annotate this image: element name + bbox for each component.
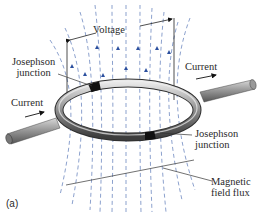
junctions — [90, 86, 155, 137]
junction-top-line2: junction — [12, 67, 55, 78]
junction-bottom-line2: junction — [195, 139, 238, 150]
field-lines — [50, 5, 195, 212]
junction-top-label: Josephson junction — [12, 56, 55, 78]
panel-label: (a) — [6, 198, 18, 209]
field-arrows — [70, 45, 171, 77]
current-right-label: Current — [185, 61, 217, 72]
junction-bottom-label: Josephson junction — [195, 128, 238, 150]
superconducting-ring — [59, 81, 197, 137]
junction-top-line1: Josephson — [12, 56, 55, 67]
voltage-label: Voltage — [93, 24, 125, 35]
flux-label: Magnetic field flux — [211, 176, 251, 198]
current-left-label: Current — [11, 97, 43, 108]
squid-diagram: Voltage Josephson junction Current Curre… — [0, 0, 264, 217]
right-lead — [200, 79, 257, 102]
flux-line1: Magnetic — [211, 176, 251, 187]
junction-bottom — [145, 135, 155, 136]
left-lead — [5, 118, 60, 145]
junction-bottom-line1: Josephson — [195, 128, 238, 139]
flux-line2: field flux — [211, 187, 251, 198]
